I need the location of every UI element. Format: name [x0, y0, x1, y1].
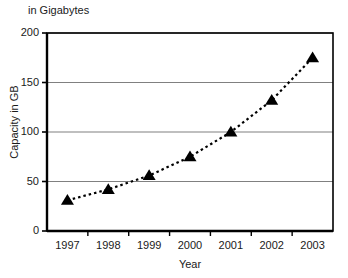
- y-tick-label: 150: [5, 77, 39, 88]
- x-tick-label: 1999: [127, 240, 171, 251]
- data-point-marker: [183, 151, 196, 162]
- x-tick-label: 1997: [45, 240, 89, 251]
- y-tick-label: 50: [5, 176, 39, 187]
- y-tick-label: 100: [5, 126, 39, 137]
- x-tick-label: 1998: [86, 240, 130, 251]
- chart-container: in Gigabytes Capacity in GB Year 0501001…: [0, 0, 348, 278]
- series-line: [67, 58, 312, 201]
- data-point-marker: [224, 126, 237, 137]
- y-tick-label: 200: [5, 27, 39, 38]
- data-point-marker: [102, 183, 115, 194]
- data-line: [67, 58, 312, 201]
- data-point-marker: [61, 194, 74, 205]
- data-point-marker: [265, 94, 278, 105]
- x-tick-label: 2001: [209, 240, 253, 251]
- x-tick-label: 2002: [250, 240, 294, 251]
- axis-ticks: [42, 33, 292, 236]
- y-tick-label: 0: [5, 225, 39, 236]
- x-tick-label: 2003: [291, 240, 335, 251]
- plot-area: [0, 0, 348, 278]
- data-point-marker: [306, 52, 319, 63]
- data-point-marker: [143, 169, 156, 180]
- x-tick-label: 2000: [168, 240, 212, 251]
